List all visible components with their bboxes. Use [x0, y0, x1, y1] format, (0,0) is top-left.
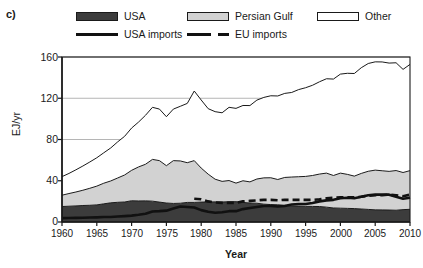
x-tick-label-1990: 1990 [251, 228, 291, 239]
x-axis-title: Year [62, 248, 410, 260]
legend-label-usa: USA [124, 10, 146, 22]
y-tick-label-80: 80 [24, 133, 58, 145]
x-tick-label-1985: 1985 [216, 228, 256, 239]
x-tick-label-1995: 1995 [286, 228, 326, 239]
axis-frame [62, 57, 410, 222]
x-tick-label-1960: 1960 [42, 228, 82, 239]
area-persian-gulf [62, 159, 410, 210]
axis-ticks [58, 57, 410, 226]
legend-label-eu-imports: EU imports [235, 28, 287, 40]
boundary-persian-gulf [62, 159, 410, 195]
figure-panel-c: c) USA Persian Gulf Other USA imports [0, 0, 423, 268]
legend-item-eu-imports: EU imports [187, 26, 287, 42]
y-axis-title: EJ/yr [10, 94, 22, 154]
boundary-usa [62, 201, 410, 210]
legend-item-persian-gulf: Persian Gulf [187, 8, 293, 24]
legend-label-persian-gulf: Persian Gulf [235, 10, 293, 22]
line-eu-imports [194, 195, 410, 203]
x-tick-label-1965: 1965 [77, 228, 117, 239]
line-usa-imports [62, 195, 410, 218]
chart-legend: USA Persian Gulf Other USA imports [62, 8, 417, 44]
panel-label: c) [6, 8, 16, 20]
legend-swatch-other-icon [317, 12, 359, 21]
legend-item-usa: USA [76, 8, 146, 24]
plot-border [62, 57, 410, 222]
y-tick-label-0: 0 [24, 215, 58, 227]
x-tick-label-2010: 2010 [390, 228, 423, 239]
x-tick-label-2005: 2005 [355, 228, 395, 239]
stacked-areas [62, 62, 410, 222]
area-boundaries [62, 62, 410, 210]
legend-label-usa-imports: USA imports [124, 28, 182, 40]
x-tick-label-1980: 1980 [181, 228, 221, 239]
area-usa [62, 201, 410, 222]
legend-row-lines: USA imports EU imports [62, 26, 417, 42]
legend-item-other: Other [317, 8, 391, 24]
area-other [62, 62, 410, 195]
import-lines [62, 195, 410, 218]
y-tick-label-120: 120 [24, 92, 58, 104]
y-tick-label-40: 40 [24, 174, 58, 186]
legend-row-areas: USA Persian Gulf Other [62, 8, 417, 24]
legend-item-usa-imports: USA imports [76, 26, 182, 42]
boundary-other [62, 62, 410, 177]
legend-swatch-persian-gulf-icon [187, 12, 229, 21]
legend-swatch-usa-icon [76, 12, 118, 21]
legend-label-other: Other [365, 10, 391, 22]
grid-lines [62, 57, 410, 181]
x-tick-label-1970: 1970 [112, 228, 152, 239]
y-tick-label-160: 160 [24, 51, 58, 63]
